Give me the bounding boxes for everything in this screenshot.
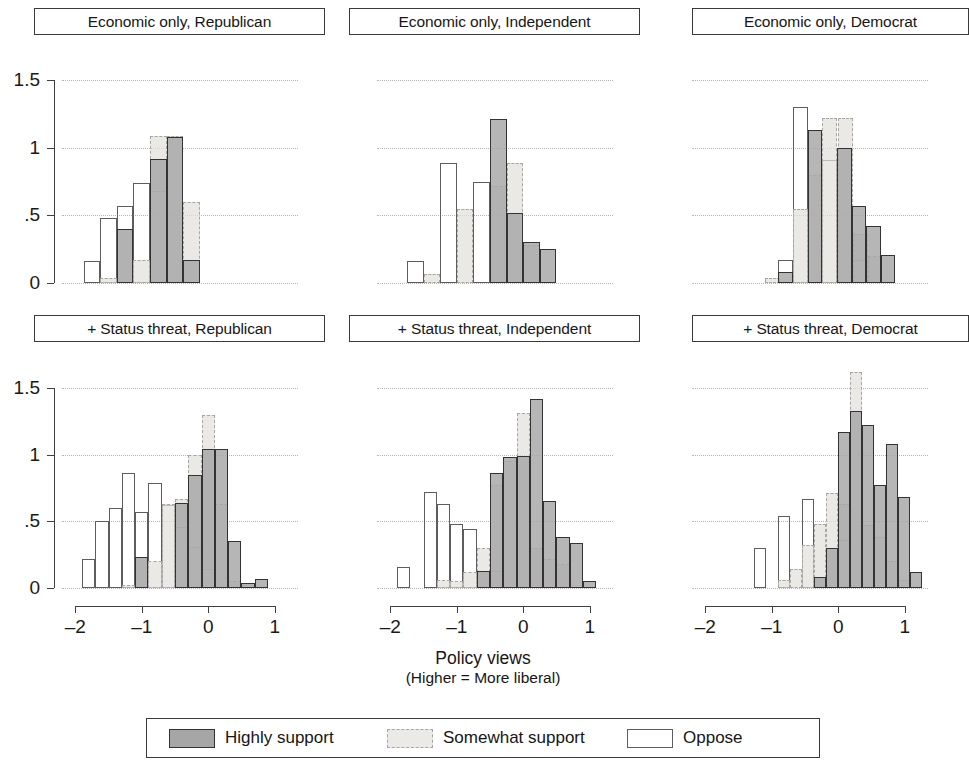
panel-title-econ-republican: Economic only, Republican xyxy=(34,8,325,35)
panel-title-status-republican: + Status threat, Republican xyxy=(34,315,325,342)
x-tick-label: –2 xyxy=(380,616,401,638)
histogram-bar xyxy=(793,209,808,283)
histogram-bar xyxy=(583,581,596,588)
x-tick-label: 0 xyxy=(833,616,844,638)
y-tick-0 xyxy=(47,283,54,284)
solid-gray-fill-swatch xyxy=(169,729,215,748)
histogram-bar xyxy=(862,425,874,588)
panel-title-status-democrat: + Status threat, Democrat xyxy=(692,315,969,342)
histogram-bar xyxy=(109,508,122,588)
x-tick-1 xyxy=(142,606,143,613)
histogram-bar xyxy=(82,559,95,588)
x-tick-label: 0 xyxy=(518,616,529,638)
x-tick-0 xyxy=(705,606,706,613)
y-tick-label: 1.5 xyxy=(0,377,40,399)
histogram-bar xyxy=(838,432,850,588)
plot-area-status-republican xyxy=(62,388,298,588)
histogram-bar xyxy=(122,585,135,588)
x-tick-label: –2 xyxy=(65,616,86,638)
histogram-bar xyxy=(898,497,910,588)
histogram-bar xyxy=(822,118,837,283)
x-tick-2 xyxy=(838,606,839,613)
legend-label-highly: Highly support xyxy=(225,728,334,748)
legend-item-oppose[interactable]: Oppose xyxy=(627,728,743,748)
y-tick-label: .5 xyxy=(0,510,40,532)
x-tick-label: 0 xyxy=(203,616,214,638)
x-tick-label: –1 xyxy=(761,616,782,638)
gridline-y-0 xyxy=(62,283,298,284)
y-tick-label: 1.5 xyxy=(0,69,40,91)
y-tick-.5 xyxy=(47,521,54,522)
y-tick-label: 0 xyxy=(0,272,40,294)
gridline-y-1.5 xyxy=(692,388,928,389)
histogram-bar xyxy=(503,457,516,588)
plot-area-status-independent xyxy=(377,388,613,588)
x-axis-title-main: Policy views xyxy=(0,648,966,669)
dashed-light-gray-swatch xyxy=(387,729,433,748)
histogram-bar xyxy=(473,182,490,284)
legend-item-somewhat[interactable]: Somewhat support xyxy=(387,728,585,748)
x-tick-2 xyxy=(523,606,524,613)
histogram-bar xyxy=(450,524,463,588)
x-tick-label: 1 xyxy=(584,616,595,638)
y-tick-label: .5 xyxy=(0,204,40,226)
gridline-y-0 xyxy=(692,588,928,589)
y-tick-label: 0 xyxy=(0,577,40,599)
histogram-bar xyxy=(133,260,150,283)
histogram-bar xyxy=(148,561,161,588)
histogram-bar xyxy=(540,249,557,283)
histogram-bar xyxy=(778,272,793,283)
histogram-bar xyxy=(490,119,507,283)
histogram-bar xyxy=(183,260,200,283)
histogram-bar xyxy=(84,261,101,283)
histogram-bar xyxy=(837,148,852,283)
y-tick-1.5 xyxy=(47,388,54,389)
gridline-y-0 xyxy=(377,283,613,284)
histogram-bar xyxy=(100,218,117,283)
x-tick-1 xyxy=(772,606,773,613)
panel-title-econ-democrat: Economic only, Democrat xyxy=(692,8,969,35)
histogram-bar xyxy=(778,516,790,588)
x-tick-3 xyxy=(905,606,906,613)
gridline-y-1.5 xyxy=(377,388,613,389)
plot-area-status-democrat xyxy=(692,388,928,588)
plot-area-econ-republican xyxy=(62,80,298,283)
histogram-bar xyxy=(117,229,134,283)
histogram-bar xyxy=(556,537,569,588)
histogram-bar xyxy=(437,504,450,588)
histogram-bar xyxy=(570,543,583,588)
histogram-bar xyxy=(754,548,766,588)
histogram-bar xyxy=(523,242,540,283)
plot-area-econ-independent xyxy=(377,80,613,283)
gridline-y-0 xyxy=(692,283,928,284)
panel-title-econ-independent: Economic only, Independent xyxy=(349,8,640,35)
histogram-bar xyxy=(477,571,490,588)
histogram-bar xyxy=(910,572,922,588)
x-axis-title-subtitle: (Higher = More liberal) xyxy=(0,669,966,688)
y-tick-0 xyxy=(47,588,54,589)
histogram-bar xyxy=(808,130,823,283)
histogram-bar xyxy=(202,449,215,588)
histogram-bar xyxy=(188,475,201,588)
histogram-bar xyxy=(255,579,268,588)
histogram-bar xyxy=(490,473,503,588)
histogram-bar xyxy=(457,209,474,283)
y-axis-line xyxy=(54,80,55,283)
y-tick-label: 1 xyxy=(0,444,40,466)
histogram-bar xyxy=(122,473,135,588)
x-tick-label: 1 xyxy=(269,616,280,638)
x-axis-line xyxy=(75,606,274,607)
histogram-bar xyxy=(814,577,826,588)
x-tick-label: –1 xyxy=(131,616,152,638)
legend-item-highly[interactable]: Highly support xyxy=(169,728,334,748)
histogram-bar xyxy=(407,261,424,283)
histogram-bar xyxy=(167,137,184,283)
legend: Highly supportSomewhat supportOppose xyxy=(146,718,820,758)
x-tick-0 xyxy=(75,606,76,613)
x-tick-label: –1 xyxy=(446,616,467,638)
histogram-bar xyxy=(228,541,241,588)
histogram-bar xyxy=(543,501,556,588)
x-axis-line xyxy=(705,606,904,607)
histogram-bar xyxy=(874,485,886,588)
